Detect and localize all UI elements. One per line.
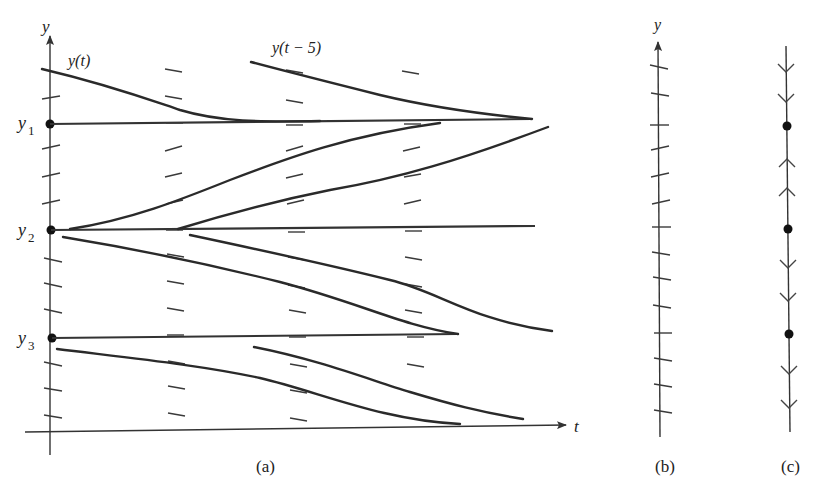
solution-curve-falling-below-y3 — [57, 349, 460, 424]
panel-b-axis-label: y — [652, 16, 662, 34]
svg-text:2: 2 — [28, 230, 35, 245]
diagram-canvas: y t y 1 y 2 y 3 y(t) y(t − 5) — [0, 0, 820, 485]
panel-c-phase-line: (c) — [778, 46, 800, 476]
panel-b-slope-marks — [650, 65, 672, 413]
solution-curve-rising-between-y1-y2 — [70, 123, 440, 229]
equilibrium-solution-y3 — [52, 334, 458, 338]
equilibrium-label-y1: y 1 — [16, 113, 35, 138]
t-axis — [25, 425, 566, 432]
equilibrium-label-y2: y 2 — [16, 220, 35, 245]
phase-line-equilibrium-y1 — [783, 122, 792, 131]
svg-text:1: 1 — [28, 123, 35, 138]
phase-line-equilibrium-y2 — [784, 225, 793, 234]
panel-b-y-axis — [658, 42, 660, 437]
svg-text:y: y — [16, 220, 26, 240]
svg-text:3: 3 — [28, 338, 35, 353]
slope-marks-column-0 — [42, 96, 62, 418]
panel-b-slope-line: y (b) — [650, 16, 675, 476]
panel-a-caption: (a) — [256, 457, 275, 476]
solution-curve-falling-shifted-between-y2-y3 — [190, 235, 552, 331]
solution-curves — [42, 62, 552, 424]
panel-b-caption: (b) — [655, 457, 675, 476]
equilibrium-label-y3: y 3 — [16, 328, 35, 353]
curve-label-y-of-t: y(t) — [66, 52, 90, 70]
solution-curve-falling-shifted-below-y3 — [254, 347, 523, 419]
svg-text:y: y — [16, 113, 26, 133]
svg-text:y: y — [16, 328, 26, 348]
curve-label-y-of-t-minus-5: y(t − 5) — [270, 39, 321, 57]
t-axis-label: t — [574, 417, 580, 436]
solution-curve-y-of-t-above-y1 — [42, 69, 320, 121]
solution-curve-falling-between-y2-y3 — [63, 237, 458, 334]
panel-a-slope-field: y t y 1 y 2 y 3 y(t) y(t − 5) — [16, 17, 580, 476]
panel-c-caption: (c) — [781, 457, 800, 476]
equilibrium-solution-y2 — [51, 226, 535, 230]
solution-curve-y-of-t-minus-5-above-y1 — [251, 62, 532, 119]
slope-marks-column-2 — [286, 70, 307, 421]
phase-line-equilibrium-y3 — [785, 330, 794, 339]
y-axis-label: y — [40, 17, 50, 36]
